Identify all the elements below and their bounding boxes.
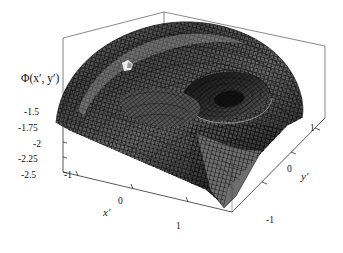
z-tick-label: -1.75 — [18, 124, 38, 134]
z-tick-label: -2 — [33, 140, 41, 150]
x-axis-title: x′ — [103, 207, 110, 218]
z-tick-label: -1.5 — [24, 108, 39, 118]
y-tick-label: 1 — [310, 124, 315, 134]
z-tick-label: -2.25 — [18, 155, 38, 165]
y-axis-title: y′ — [301, 171, 308, 182]
plot-canvas — [0, 0, 343, 253]
z-axis-title: Φ(x′, y′) — [21, 73, 59, 85]
surface-plot-figure: Φ(x′, y′) -1.5 -1.75 -2 -2.25 -2.5 -1 0 … — [0, 0, 343, 253]
z-tick-label: -2.5 — [21, 171, 36, 181]
x-tick-label: -1 — [64, 171, 72, 181]
x-tick-label: 0 — [118, 197, 123, 207]
y-tick-label: 0 — [287, 165, 292, 175]
y-tick-label: -1 — [266, 216, 274, 226]
x-tick-label: 1 — [176, 222, 181, 232]
